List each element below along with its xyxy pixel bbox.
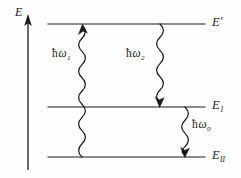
photon-label-omega2: ħω2 bbox=[126, 48, 144, 60]
arrowhead-omega1-up bbox=[78, 24, 87, 35]
energy-axis-label: E bbox=[15, 6, 22, 18]
arrowhead-omega2-down bbox=[155, 97, 164, 108]
omega-subscript-omega1: 1 bbox=[67, 54, 71, 62]
photon-label-omega0: ħω0 bbox=[192, 119, 210, 131]
level-lines bbox=[48, 24, 205, 157]
omega-symbol-omega2: ω bbox=[132, 47, 140, 59]
level-label-upper-main: E bbox=[212, 15, 220, 29]
wavy-line-omega1 bbox=[79, 26, 86, 157]
level-label-middle: E1 bbox=[212, 99, 223, 112]
photon-label-omega1: ħω1 bbox=[52, 48, 70, 60]
omega-subscript-omega0: 0 bbox=[207, 125, 211, 133]
level-label-lower: EII bbox=[212, 149, 225, 162]
level-label-lower-sub: II bbox=[220, 155, 225, 164]
transition-omega1 bbox=[78, 24, 87, 157]
omega-symbol-omega0: ω bbox=[198, 118, 206, 130]
level-label-middle-main: E bbox=[212, 98, 220, 112]
omega-subscript-omega2: 2 bbox=[141, 54, 145, 62]
diagram-canvas bbox=[0, 0, 241, 178]
energy-level-diagram: E E′ E1 EII ħω1 ħω2 ħω0 bbox=[0, 0, 241, 178]
transition-omega2 bbox=[155, 24, 164, 108]
level-label-upper-prime: ′ bbox=[220, 14, 223, 28]
level-label-upper: E′ bbox=[212, 16, 222, 29]
omega-symbol-omega1: ω bbox=[58, 47, 66, 59]
level-label-lower-main: E bbox=[212, 148, 220, 162]
wavy-line-omega2 bbox=[157, 24, 164, 101]
energy-axis bbox=[24, 14, 32, 170]
wavy-line-omega0 bbox=[182, 107, 189, 154]
level-label-middle-sub: 1 bbox=[220, 105, 224, 114]
transition-omega0 bbox=[181, 107, 190, 158]
